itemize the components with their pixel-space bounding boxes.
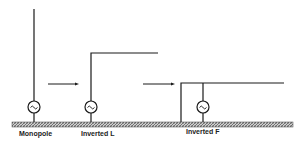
right-arrow-icon bbox=[48, 83, 79, 86]
inverted-f-antenna bbox=[181, 83, 284, 122]
label-inverted-f: Inverted F bbox=[186, 128, 219, 135]
label-inverted-l: Inverted L bbox=[81, 130, 114, 137]
right-arrow-icon bbox=[143, 83, 175, 86]
ground-plane bbox=[12, 122, 293, 127]
inverted-l-antenna bbox=[85, 53, 158, 122]
monopole-antenna bbox=[28, 9, 40, 122]
label-monopole: Monopole bbox=[19, 130, 52, 137]
